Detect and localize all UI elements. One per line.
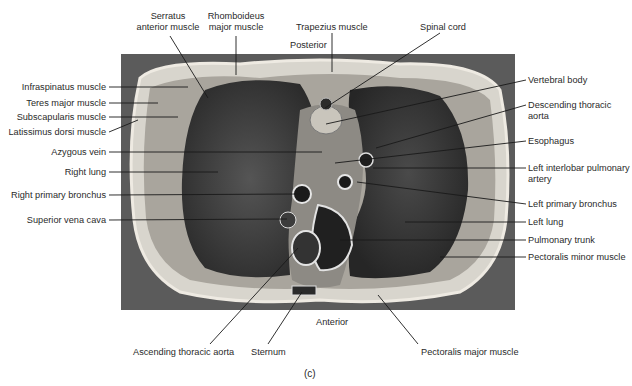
- label-spinal-cord: Spinal cord: [420, 22, 466, 33]
- svc-shape: [280, 212, 296, 228]
- label-infraspinatus-muscle: Infraspinatus muscle: [22, 82, 106, 93]
- label-right-lung: Right lung: [65, 167, 106, 178]
- label-right-primary-bronchus: Right primary bronchus: [11, 190, 106, 201]
- label-trapezius-muscle: Trapezius muscle: [296, 22, 368, 33]
- panel-label: (c): [304, 368, 316, 379]
- label-left-lung: Left lung: [528, 217, 563, 228]
- label-vertebral-body: Vertebral body: [528, 75, 587, 86]
- orientation-anterior: Anterior: [316, 317, 348, 328]
- label-left-primary-bronchus: Left primary bronchus: [528, 199, 617, 210]
- label-pectoralis-major-muscle: Pectoralis major muscle: [421, 347, 519, 358]
- label-sternum: Sternum: [251, 347, 286, 358]
- label-pulmonary-trunk: Pulmonary trunk: [528, 235, 595, 246]
- spinal-cord-shape: [320, 98, 332, 110]
- label-rhomboideus-major-muscle: Rhomboideus major muscle: [196, 11, 276, 33]
- label-left-interlobar-pulmonary-artery: Left interlobar pulmonary artery: [528, 163, 630, 185]
- sternum-shape: [292, 286, 316, 295]
- label-azygous-vein: Azygous vein: [51, 147, 106, 158]
- label-ascending-thoracic-aorta: Ascending thoracic aorta: [133, 347, 234, 358]
- label-teres-major-muscle: Teres major muscle: [26, 98, 106, 109]
- orientation-posterior: Posterior: [290, 40, 327, 51]
- label-latissimus-dorsi-muscle: Latissimus dorsi muscle: [8, 127, 106, 138]
- left-bronchus-shape: [338, 175, 352, 189]
- label-descending-thoracic-aorta: Descending thoracic aorta: [528, 100, 611, 122]
- label-pectoralis-minor-muscle: Pectoralis minor muscle: [528, 252, 626, 263]
- ascending-aorta-shape: [292, 231, 320, 265]
- label-subscapularis-muscle: Subscapularis muscle: [17, 112, 106, 123]
- label-esophagus: Esophagus: [528, 136, 574, 147]
- anatomy-figure: Serratus anterior muscle Rhomboideus maj…: [0, 0, 632, 386]
- label-superior-vena-cava: Superior vena cava: [27, 215, 106, 226]
